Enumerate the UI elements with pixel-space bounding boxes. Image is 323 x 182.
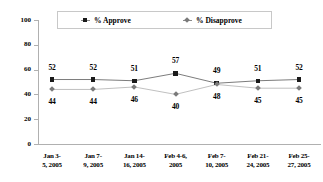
data-point-label: 51 [131,65,138,73]
data-point-label: 51 [254,65,261,73]
data-point-label: 45 [295,97,302,105]
legend-label-approve: % Approve [94,17,131,25]
y-tick-label: 20 [3,116,31,123]
data-point-label: 57 [172,57,179,65]
diamond-marker-icon [183,16,192,25]
data-point-label: 40 [172,103,179,111]
x-tick-label: Jan 14- 16, 2005 [123,152,146,170]
data-point-label: 46 [131,96,138,104]
x-tick-label: Jan 7- 9, 2005 [83,152,103,170]
data-point-label: 52 [48,64,55,72]
y-tick-label: 60 [3,66,31,73]
legend-item-approve: % Approve [81,16,131,25]
x-axis-line [38,144,321,145]
data-point-label: 52 [90,64,97,72]
y-tick-label: 100 [3,17,31,24]
chart-legend: % Approve % Disapprove [57,11,272,29]
legend-item-disapprove: % Disapprove [183,16,242,25]
y-tick-label: 40 [3,91,31,98]
chart-container: 020406080100 525251574951524444464048454… [0,0,323,182]
x-tick-label: Feb 4-6, 2005 [164,152,187,170]
square-marker-icon [91,77,96,82]
square-marker-icon [297,77,302,82]
plot-area: 5252515749515244444640484545 [38,20,321,144]
y-tick-label: 0 [3,141,31,148]
data-point-label: 45 [254,97,261,105]
square-marker-icon [256,79,261,84]
data-point-label: 49 [213,67,220,75]
x-tick-label: Jan 3- 5, 2005 [42,152,62,170]
x-tick-label: Feb 21- 24, 2005 [246,152,269,170]
square-marker-icon [50,77,55,82]
data-point-label: 44 [48,98,55,106]
x-tick-label: Feb 7- 10, 2005 [205,152,228,170]
y-tick-mark [34,144,38,145]
data-point-label: 52 [295,64,302,72]
y-tick-label: 80 [3,41,31,48]
series-lines [38,20,321,144]
x-tick-label: Feb 25- 27, 2005 [288,152,311,170]
data-point-label: 48 [213,93,220,101]
legend-label-disapprove: % Disapprove [196,17,242,25]
square-marker-icon [81,16,90,25]
square-marker-icon [173,71,178,76]
data-point-label: 44 [90,98,97,106]
square-marker-icon [132,79,137,84]
